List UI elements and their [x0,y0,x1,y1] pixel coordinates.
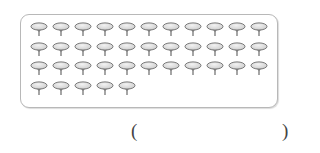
thumbtack-icon [227,60,249,79]
thumbtack-icon [117,60,139,79]
thumbtack-icon [205,21,227,40]
thumbtack-row [29,21,271,41]
thumbtack-icon [73,21,95,40]
thumbtack-icon [29,41,51,60]
thumbtack-icon [205,60,227,79]
thumbtack-icon [95,41,117,60]
thumbtack-icon [249,21,271,40]
thumbtack-icon [139,41,161,60]
thumbtack-row [29,80,271,100]
thumbtack-icon [205,41,227,60]
thumbtack-icon [73,41,95,60]
thumbtack-icon [249,41,271,60]
thumbtack-icon [139,21,161,40]
thumbtack-icon [183,60,205,79]
thumbtack-icon [117,80,139,99]
thumbtack-icon [29,21,51,40]
thumbtack-row [29,41,271,61]
thumbtack-icon [183,21,205,40]
thumbtack-icon [51,80,73,99]
thumbtack-icon [95,21,117,40]
thumbtack-box [20,14,278,108]
thumbtack-icon [51,60,73,79]
thumbtack-row [29,60,271,80]
thumbtack-icon [29,80,51,99]
thumbtack-icon [227,21,249,40]
thumbtack-icon [139,60,161,79]
thumbtack-icon [249,60,271,79]
thumbtack-icon [73,60,95,79]
thumbtack-icon [73,80,95,99]
thumbtack-icon [117,21,139,40]
thumbtack-icon [227,41,249,60]
thumbtack-icon [117,41,139,60]
thumbtack-grid [29,21,271,99]
thumbtack-icon [51,41,73,60]
answer-close-paren: ) [282,120,288,142]
thumbtack-icon [95,60,117,79]
thumbtack-icon [161,21,183,40]
thumbtack-icon [161,41,183,60]
thumbtack-icon [29,60,51,79]
thumbtack-icon [51,21,73,40]
thumbtack-icon [95,80,117,99]
thumbtack-icon [183,41,205,60]
answer-open-paren: ( [131,120,137,142]
thumbtack-icon [161,60,183,79]
